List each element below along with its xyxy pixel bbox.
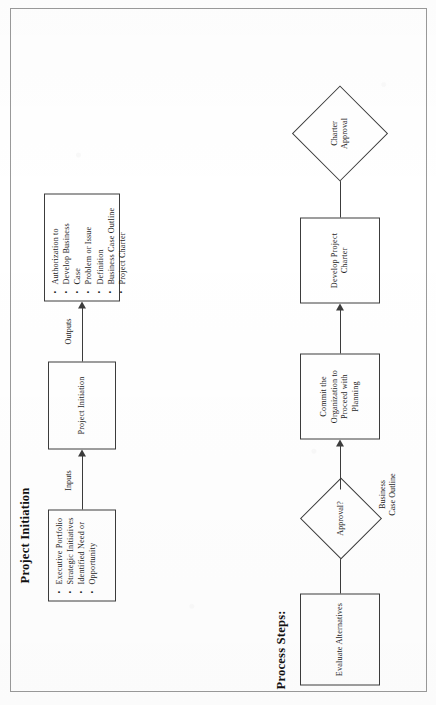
step-label-line: Organization to xyxy=(330,369,341,422)
ipo-section-title: Project Initiation xyxy=(18,487,33,583)
outputs-item-cont: Develop Business xyxy=(62,207,73,284)
outputs-item: Authorization to xyxy=(51,207,62,284)
outputs-box: Authorization to Develop Business Case P… xyxy=(44,193,120,301)
inputs-item: Identified Need or xyxy=(77,517,88,584)
outputs-edge-label: Outputs xyxy=(64,309,74,353)
outputs-list: Authorization to Develop Business Case P… xyxy=(51,207,129,293)
step-develop-project-charter: Develop Project Charter xyxy=(300,217,380,303)
step-label-line: Charter xyxy=(340,232,351,287)
inputs-item: Strategic Initiatives xyxy=(66,517,77,584)
outputs-item-cont: Definition xyxy=(96,207,107,284)
outputs-item: Problem or Issue xyxy=(84,207,95,284)
decision-approval-label: Approval? xyxy=(312,489,370,547)
step-evaluate-alternatives: Evaluate Alternatives xyxy=(300,593,380,685)
diagram-canvas: Project Initiation Executive Portfolio S… xyxy=(0,0,436,705)
process-box: Project Initiation xyxy=(48,361,116,449)
inputs-list: Executive Portfolio Strategic Initiative… xyxy=(55,517,100,593)
connector-commit-to-develop-arrowhead xyxy=(336,303,344,310)
connector-commit-to-develop xyxy=(340,309,341,353)
step-label-line: Develop Project xyxy=(330,232,341,287)
decision-charter-approval: Charter Approval xyxy=(306,99,374,167)
edge-label-line2: Case Outline xyxy=(388,451,398,537)
decision-approval: Approval? xyxy=(312,489,370,547)
outputs-item: Project Charter xyxy=(118,207,129,284)
inputs-box: Executive Portfolio Strategic Initiative… xyxy=(48,509,116,601)
step-commit-organization: Commit the Organization to Proceed with … xyxy=(300,353,380,439)
step-label-line: Planning xyxy=(351,369,362,422)
outputs-item: Business Case Outline xyxy=(107,207,118,284)
step-label-block: Commit the Organization to Proceed with … xyxy=(319,369,361,422)
outputs-item-cont: Case xyxy=(73,207,84,284)
inputs-connector xyxy=(82,455,83,509)
step-label-block: Develop Project Charter xyxy=(330,232,351,287)
process-box-label: Project Initiation xyxy=(77,376,88,434)
outputs-arrowhead xyxy=(78,301,86,308)
step-label: Evaluate Alternatives xyxy=(335,602,346,675)
decision-label-line: Approval xyxy=(340,118,351,149)
inputs-arrowhead xyxy=(78,449,86,456)
decision-label-line: Charter xyxy=(330,118,341,149)
connector-approval-to-commit xyxy=(340,445,341,489)
decision-charter-approval-label: Charter Approval xyxy=(306,99,374,167)
inputs-item-cont: Opportunity xyxy=(88,517,99,584)
step-label-line: Proceed with xyxy=(340,369,351,422)
inputs-edge-label: Inputs xyxy=(64,460,74,500)
connector-approval-to-commit-arrowhead xyxy=(336,439,344,446)
edge-label-business-case-outline: Business Case Outline xyxy=(378,451,399,537)
inputs-item: Executive Portfolio xyxy=(55,517,66,584)
process-steps-title: Process Steps: xyxy=(274,610,289,689)
edge-label-line1: Business xyxy=(378,451,388,537)
step-label-line: Commit the xyxy=(319,369,330,422)
outputs-connector xyxy=(82,307,83,361)
